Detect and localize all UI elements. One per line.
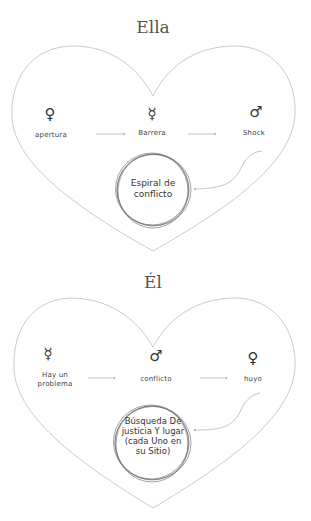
arrow-problema-conflicto [88,377,115,379]
mars-icon: ♂ [241,105,271,120]
step-label-barrera: Barrera [117,129,187,138]
result-text-ella: Espiral de conflicto [118,178,188,200]
venus-icon: ♀ [238,351,268,366]
mercury-icon: ☿ [33,347,63,362]
mars-icon: ♂ [141,349,171,364]
arrow-barrera-shock [188,133,216,135]
diagram-title-el: Él [113,272,193,292]
diagram-title-ella: Ella [113,17,193,37]
heart-outline-ella [12,46,295,251]
step-label-hay-un-problema: Hay un problema [32,371,78,389]
curved-arrow-shock-to-result [196,151,262,189]
mercury-icon: ☿ [137,107,167,122]
heart-outline-el [14,298,295,508]
step-label-shock: Shock [219,129,289,138]
venus-icon: ♀ [35,107,65,122]
step-label-huyo: huyo [218,375,288,384]
step-label-conflicto: conflicto [121,375,191,384]
curved-arrow-huyo-to-result [196,393,260,430]
step-label-apertura: apertura [16,131,86,140]
result-text-el: Búsqueda De justicia Y lugar (cada Uno e… [120,416,186,456]
